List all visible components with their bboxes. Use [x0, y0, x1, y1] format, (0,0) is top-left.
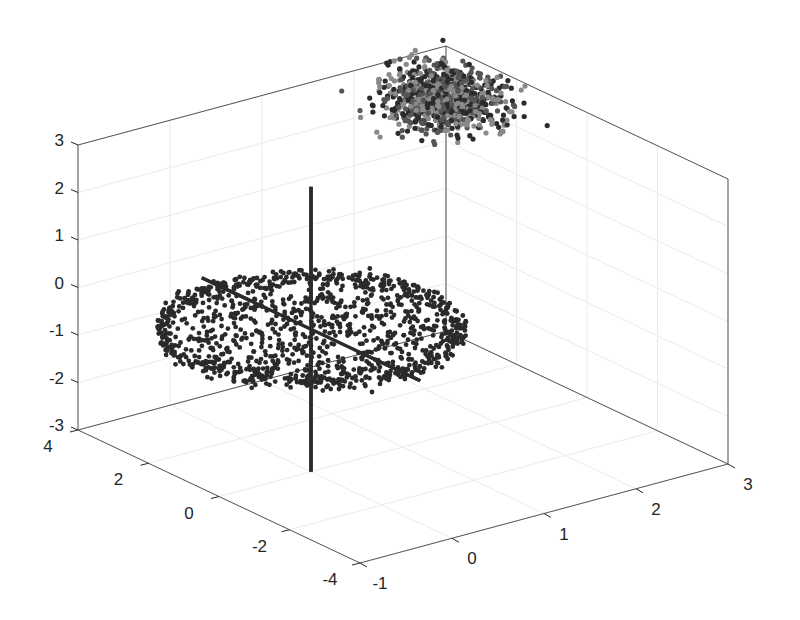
x-tick-label: -1 — [372, 574, 387, 593]
disk-point — [347, 326, 352, 331]
z-tick-label: -1 — [49, 321, 64, 340]
disk-point — [207, 292, 212, 297]
disk-point — [367, 349, 372, 354]
disk-point — [281, 297, 286, 302]
disk-point — [341, 356, 346, 361]
disk-point — [363, 281, 368, 286]
disk-point — [232, 339, 237, 344]
disk-point — [286, 270, 291, 275]
disk-point — [273, 379, 278, 384]
disk-point — [327, 322, 332, 327]
disk-point — [436, 354, 441, 359]
disk-point — [193, 313, 198, 318]
disk-point — [331, 329, 336, 334]
disk-point — [440, 365, 445, 370]
cluster-point — [470, 91, 475, 96]
cluster-point — [404, 92, 409, 97]
disk-point — [280, 353, 285, 358]
disk-point — [263, 353, 268, 358]
disk-point — [197, 348, 202, 353]
disk-point — [171, 320, 176, 325]
disk-point — [260, 373, 265, 378]
disk-point — [282, 302, 287, 307]
cluster-point — [357, 108, 362, 113]
disk-point — [425, 302, 430, 307]
disk-point — [411, 283, 416, 288]
disk-point — [234, 370, 239, 375]
disk-point — [321, 282, 326, 287]
disk-point — [231, 303, 236, 308]
disk-point — [241, 379, 246, 384]
disk-point — [371, 277, 376, 282]
cluster-point — [500, 129, 505, 134]
disk-point — [184, 321, 189, 326]
disk-point — [211, 319, 216, 324]
cluster-point — [403, 106, 408, 111]
disk-point — [420, 359, 425, 364]
disk-point — [257, 330, 262, 335]
disk-point — [445, 343, 450, 348]
cluster-point — [461, 74, 466, 79]
disk-point — [338, 383, 343, 388]
disk-point — [236, 362, 241, 367]
disk-point — [379, 282, 384, 287]
cluster-point — [521, 101, 526, 106]
cluster-point — [440, 38, 445, 43]
cluster-point — [447, 87, 452, 92]
disk-point — [166, 317, 171, 322]
disk-point — [201, 301, 206, 306]
disk-point — [200, 343, 205, 348]
cluster-point — [503, 99, 508, 104]
disk-point — [352, 385, 357, 390]
disk-point — [243, 331, 248, 336]
disk-point — [338, 272, 343, 277]
disk-point — [188, 362, 193, 367]
cluster-point — [414, 108, 419, 113]
disk-point — [403, 286, 408, 291]
disk-point — [279, 326, 284, 331]
cluster-point — [435, 115, 440, 120]
cluster-point — [426, 110, 431, 115]
cluster-point — [381, 97, 386, 102]
disk-point — [356, 351, 361, 356]
disk-point — [396, 277, 401, 282]
disk-point — [300, 373, 305, 378]
disk-point — [347, 385, 352, 390]
disk-point — [301, 272, 306, 277]
disk-point — [348, 304, 353, 309]
disk-point — [339, 298, 344, 303]
disk-point — [449, 316, 454, 321]
cluster-point — [448, 132, 453, 137]
disk-point — [443, 350, 448, 355]
disk-point — [203, 288, 208, 293]
disk-point — [280, 341, 285, 346]
disk-point — [305, 276, 310, 281]
disk-point — [323, 351, 328, 356]
disk-point — [164, 339, 169, 344]
cluster-point — [419, 127, 424, 132]
disk-point — [279, 269, 284, 274]
disk-point — [210, 360, 215, 365]
disk-point — [296, 343, 301, 348]
disk-point — [220, 334, 225, 339]
disk-point — [249, 341, 254, 346]
disk-point — [369, 363, 374, 368]
disk-point — [201, 324, 206, 329]
disk-point — [294, 321, 299, 326]
disk-point — [190, 326, 195, 331]
disk-point — [197, 355, 202, 360]
disk-point — [353, 314, 358, 319]
disk-point — [346, 275, 351, 280]
disk-point — [343, 305, 348, 310]
disk-point — [292, 360, 297, 365]
disk-point — [422, 366, 427, 371]
cluster-point — [412, 126, 417, 131]
disk-point — [409, 298, 414, 303]
cluster-point — [397, 66, 402, 71]
cluster-point — [370, 109, 375, 114]
cluster-point — [398, 77, 403, 82]
cluster-point — [405, 129, 410, 134]
disk-point — [342, 379, 347, 384]
disk-point — [324, 385, 329, 390]
disk-point — [205, 375, 210, 380]
